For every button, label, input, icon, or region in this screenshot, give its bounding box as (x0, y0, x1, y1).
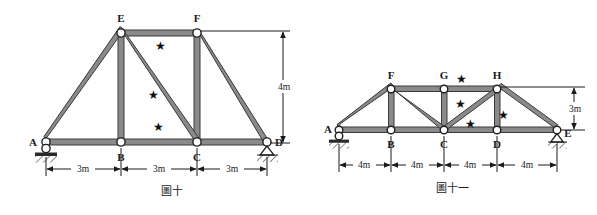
figure-11-caption: 圖十一 (436, 181, 469, 194)
figure-11-vertical-dimension-label: 3m (563, 102, 586, 115)
node-label-H: H (493, 69, 502, 81)
dim-label-BC: 4m (411, 160, 424, 170)
node-B (387, 126, 395, 134)
dim-label-DE: 4m (521, 160, 534, 170)
star-marker-CH: ★ (455, 97, 466, 111)
dim-label-CD: 4m (464, 160, 477, 170)
node-C (440, 126, 448, 134)
dim-label-AB: 4m (358, 160, 371, 170)
figure-11-dimension-labels: 4m 4m 4m 4m (353, 158, 538, 170)
member-D-E (497, 127, 557, 133)
member-A-F (337, 83, 394, 127)
member-G-C (442, 89, 448, 130)
member-F-G (391, 86, 444, 92)
dim-label-height: 3m (569, 104, 582, 114)
node-label-E: E (564, 127, 571, 139)
node-label-G: G (440, 69, 449, 81)
node-D (493, 126, 501, 134)
node-G (440, 85, 448, 93)
star-marker-DH: ★ (498, 108, 509, 122)
member-F-B (389, 89, 395, 130)
star-marker-GH: ★ (456, 72, 467, 86)
figure-11-canvas: ★ ★ ★ ★ A B C D E F G H (0, 0, 597, 215)
member-A-B (338, 127, 391, 133)
node-label-F: F (388, 69, 395, 81)
member-B-C (391, 127, 444, 133)
node-F (387, 85, 395, 93)
member-G-H (444, 86, 497, 92)
member-F-C (392, 88, 447, 131)
truss-figure-sheet: ★ ★ ★ A B C D E F 3m (0, 0, 597, 215)
node-label-A: A (324, 123, 332, 135)
node-H (493, 85, 501, 93)
star-marker-CD: ★ (465, 117, 476, 131)
